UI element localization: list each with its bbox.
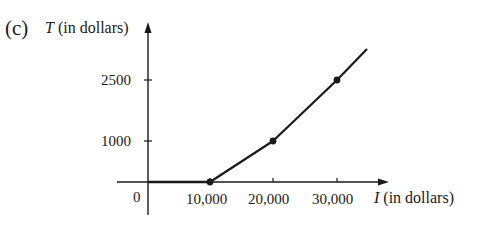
- y-axis-title: T (in dollars): [45, 20, 129, 36]
- data-point-20000: [270, 138, 277, 145]
- y-tick-label-1000: 1000: [101, 134, 131, 149]
- x-tick-label-20000: 20,000: [248, 192, 289, 207]
- y-axis-unit: (in dollars): [54, 19, 129, 36]
- y-axis-variable: T: [45, 19, 54, 36]
- x-axis-arrow-icon: [378, 179, 389, 186]
- panel-label: (c): [5, 18, 28, 39]
- y-tick-label-2500: 2500: [101, 73, 131, 88]
- origin-label: 0: [133, 190, 141, 205]
- x-tick-label-30000: 30,000: [312, 192, 353, 207]
- data-point-30000: [334, 77, 341, 84]
- x-tick-label-10000: 10,000: [186, 192, 227, 207]
- x-axis-unit: (in dollars): [379, 189, 454, 206]
- x-axis-title: I (in dollars): [374, 190, 454, 206]
- graph-line: [210, 49, 367, 182]
- y-axis-arrow-icon: [145, 22, 152, 33]
- data-point-10000: [207, 179, 214, 186]
